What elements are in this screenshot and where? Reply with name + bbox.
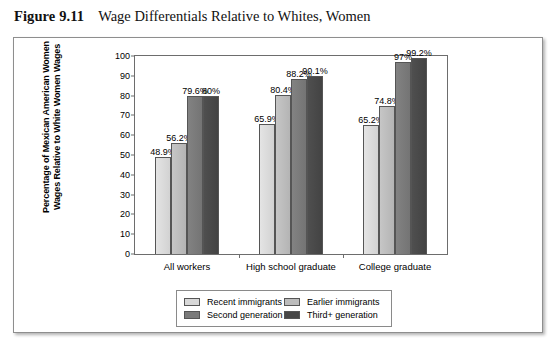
legend-label: Second generation (207, 310, 283, 320)
legend-item-third-generation: Third+ generation (284, 310, 384, 320)
bar[interactable]: 79.6% (187, 96, 203, 254)
legend-item-second-generation: Second generation (184, 310, 284, 320)
bar-value-label: 99.2% (406, 48, 432, 58)
bar-slot: 48.9% (155, 56, 171, 254)
figure-title: Wage Differentials Relative to Whites, W… (98, 8, 370, 24)
bar[interactable]: 99.2% (411, 58, 427, 254)
y-tick-mark (131, 75, 135, 76)
bar[interactable]: 97% (395, 62, 411, 254)
bar-slot: 88.2% (291, 56, 307, 254)
legend-item-recent-immigrants: Recent immigrants (184, 297, 284, 307)
bar[interactable]: 88.2% (291, 79, 307, 254)
legend: Recent immigrants Earlier immigrants Sec… (176, 290, 392, 327)
bar-slot: 80% (203, 56, 219, 254)
bar[interactable]: 65.9% (259, 124, 275, 254)
bar-slot: 65.2% (363, 56, 379, 254)
y-tick-mark (131, 115, 135, 116)
x-category-label: All workers (164, 261, 210, 272)
figure-number: Figure 9.11 (14, 8, 84, 24)
legend-swatch-icon (284, 311, 300, 319)
y-axis-title-line1: Percentage of Mexican American Women (41, 27, 52, 227)
figure-panel: Percentage of Mexican American Women Wag… (13, 37, 543, 333)
bar[interactable]: 48.9% (155, 157, 171, 254)
y-tick-mark (131, 234, 135, 235)
bar[interactable]: 65.2% (363, 125, 379, 254)
legend-label: Third+ generation (307, 310, 378, 320)
bar[interactable]: 56.2% (171, 143, 187, 254)
bar-slot: 99.2% (411, 56, 427, 254)
legend-label: Earlier immigrants (307, 297, 380, 307)
bar[interactable]: 80% (203, 96, 219, 254)
legend-item-earlier-immigrants: Earlier immigrants (284, 297, 384, 307)
y-tick-mark (131, 56, 135, 57)
legend-row: Second generation Third+ generation (184, 308, 384, 321)
y-tick-mark (131, 254, 135, 255)
bar[interactable]: 80.4% (275, 95, 291, 254)
y-axis-title-line2: Wages Relative to White Women Wages (52, 27, 63, 227)
legend-label: Recent immigrants (207, 297, 282, 307)
bar-group: 65.9%80.4%88.2%90.1% (259, 56, 323, 254)
x-tick-mark (343, 254, 344, 258)
bar-slot: 79.6% (187, 56, 203, 254)
bar-value-label: 80% (202, 86, 220, 96)
x-tick-mark (239, 254, 240, 258)
figure-caption: Figure 9.11Wage Differentials Relative t… (14, 8, 534, 30)
bar-value-label: 90.1% (302, 66, 328, 76)
legend-swatch-icon (184, 311, 200, 319)
bar[interactable]: 90.1% (307, 76, 323, 254)
bar-slot: 74.8% (379, 56, 395, 254)
plot-frame: 0102030405060708090100 48.9%56.2%79.6%80… (134, 55, 448, 255)
legend-swatch-icon (184, 298, 200, 306)
bar-slot: 80.4% (275, 56, 291, 254)
legend-swatch-icon (284, 298, 300, 306)
y-tick-mark (131, 214, 135, 215)
y-tick-mark (131, 194, 135, 195)
x-category-label: High school graduate (246, 261, 336, 272)
bar-slot: 97% (395, 56, 411, 254)
y-tick-mark (131, 95, 135, 96)
y-tick-mark (131, 135, 135, 136)
legend-row: Recent immigrants Earlier immigrants (184, 295, 384, 308)
y-axis-title: Percentage of Mexican American Women Wag… (41, 27, 63, 227)
bar[interactable]: 74.8% (379, 106, 395, 254)
y-tick-mark (131, 174, 135, 175)
bar-group: 65.2%74.8%97%99.2% (363, 56, 427, 254)
y-tick-mark (131, 155, 135, 156)
bar-group: 48.9%56.2%79.6%80% (155, 56, 219, 254)
bar-slot: 90.1% (307, 56, 323, 254)
x-category-label: College graduate (359, 261, 431, 272)
